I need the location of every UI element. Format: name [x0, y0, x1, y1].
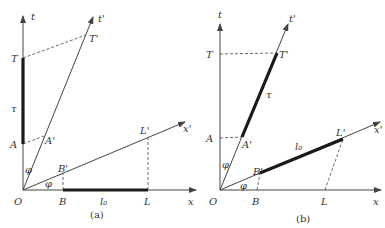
label-B-prime: B' [252, 166, 263, 177]
label-t: t [218, 9, 223, 20]
label-x: x [188, 196, 194, 207]
label-B-prime: B' [57, 163, 68, 174]
label-l0: l₀ [295, 141, 302, 152]
label-B: B [251, 196, 259, 207]
dash-T-Tprime [23, 35, 86, 58]
label-t: t [31, 11, 36, 22]
tau-segment [242, 53, 277, 137]
label-x: x [373, 196, 379, 207]
label-x-prime: x' [183, 123, 191, 134]
label-T: T [11, 53, 19, 64]
label-L-prime: L' [139, 125, 149, 136]
label-phi-lower: φ [45, 178, 52, 189]
label-O: O [209, 196, 217, 207]
label-t-prime: t' [98, 13, 105, 24]
spacetime-diagram: t t' T' T τ A A' φ φ B' L' x' O B l₀ L x… [0, 0, 385, 228]
dash-A-Aprime [23, 136, 44, 144]
label-O: O [14, 196, 22, 207]
caption-b: (b) [296, 213, 310, 224]
label-x-prime: x' [374, 124, 382, 135]
label-phi-upper: φ [25, 164, 32, 175]
label-tau: τ [11, 103, 17, 114]
panel-a: t t' T' T τ A A' φ φ B' L' x' O B l₀ L x… [9, 11, 196, 220]
label-t-prime: t' [289, 13, 296, 24]
dash-T-Tprime [220, 53, 277, 54]
label-A-prime: A' [241, 139, 252, 150]
label-B: B [58, 196, 66, 207]
label-T-prime: T' [89, 33, 98, 44]
label-l0: l₀ [100, 196, 107, 207]
label-A-prime: A' [44, 135, 55, 146]
panel-b: t t' T' T τ A A' φ φ B' l₀ L' x' O B L x… [205, 9, 382, 224]
label-L-prime: L' [335, 127, 345, 138]
label-tau: τ [266, 89, 272, 100]
label-phi-lower: φ [240, 180, 247, 191]
caption-a: (a) [90, 209, 104, 220]
label-L: L [320, 196, 328, 207]
label-T: T [206, 49, 214, 60]
label-phi-upper: φ [222, 159, 229, 170]
dash-A-Aprime [220, 137, 242, 138]
label-A: A [9, 139, 17, 150]
label-A: A [205, 133, 213, 144]
label-T-prime: T' [279, 49, 288, 60]
label-L: L [143, 196, 151, 207]
